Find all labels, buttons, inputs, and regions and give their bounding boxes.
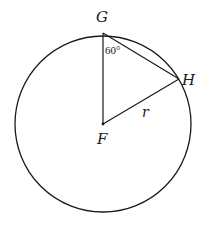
point-label-f: F: [96, 130, 108, 148]
angle-label-g: 60°: [105, 44, 120, 56]
geometry-diagram: G H F 60° r: [0, 0, 208, 226]
point-label-h: H: [181, 71, 196, 89]
point-label-g: G: [96, 8, 108, 26]
center-point-f: [102, 123, 105, 126]
segment-gh: [103, 33, 179, 79]
side-label-r: r: [142, 104, 150, 120]
segment-fh: [103, 79, 179, 124]
